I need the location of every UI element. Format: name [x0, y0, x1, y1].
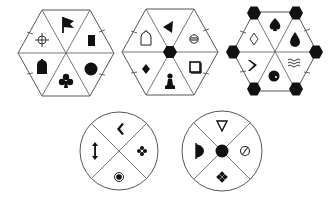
flag-icon	[63, 17, 74, 33]
open-down-triangle-icon	[217, 121, 227, 131]
hexagon-1	[18, 10, 114, 96]
vertex-filled-hexagon-icon	[309, 46, 323, 59]
vertex-filled-hexagon-icon	[289, 7, 303, 20]
drop-icon	[290, 32, 300, 47]
open-tombstone-icon	[141, 31, 151, 45]
puzzle-figure	[0, 0, 334, 215]
filled-circle-icon	[85, 63, 98, 76]
left-chevron-icon	[117, 123, 124, 135]
crosshair-icon	[35, 33, 49, 47]
four-dot-diamond-cluster-icon	[216, 171, 228, 183]
open-square-icon	[190, 62, 201, 73]
hexagon-3	[226, 7, 323, 96]
vertex-filled-hexagon-icon	[289, 83, 303, 96]
bullseye-icon	[115, 173, 124, 182]
vertex-filled-hexagon-icon	[247, 83, 261, 96]
edge-tick	[27, 73, 33, 74]
figure-title: Hexagon and circle symbol puzzle	[0, 0, 17, 1]
half-filled-d-icon	[196, 143, 204, 159]
circle-slash-icon	[241, 147, 250, 156]
filled-tombstone-icon	[37, 59, 47, 74]
filled-circle-with-dot-icon	[269, 71, 280, 82]
hexagon-2	[122, 9, 218, 95]
edge-tick	[304, 72, 310, 73]
circle-1	[80, 112, 158, 190]
circle-with-line-icon	[190, 35, 198, 43]
edge-tick	[240, 71, 246, 72]
filled-rectangle-icon	[88, 35, 95, 46]
right-chevron-icon	[248, 60, 257, 71]
up-down-arrow-icon	[92, 142, 98, 160]
spade-icon	[270, 18, 281, 31]
chess-pawn-icon	[165, 73, 175, 89]
club-icon	[59, 74, 73, 88]
vertex-filled-hexagon-icon	[226, 46, 240, 59]
open-diamond-icon	[250, 33, 258, 45]
filled-diamond-icon	[142, 64, 150, 74]
edge-tick	[99, 74, 105, 75]
waves-icon	[288, 59, 300, 67]
left-triangle-icon	[163, 21, 173, 33]
four-dot-flower-icon	[137, 146, 147, 156]
edge-tick	[131, 72, 137, 73]
center-filled-circle-icon	[216, 145, 229, 158]
vertex-filled-hexagon-icon	[247, 7, 261, 20]
circle-2	[182, 111, 262, 191]
edge-tick	[203, 73, 209, 74]
center-filled-hexagon-icon	[163, 46, 177, 58]
